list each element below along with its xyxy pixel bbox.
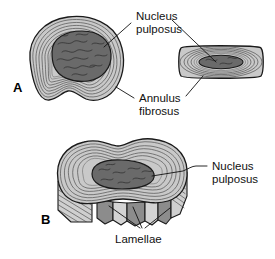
nucleus-pulposus-a (52, 31, 111, 81)
nucleus-pulposus-lateral (199, 55, 243, 69)
annulus-fibrosus-label-line2: fibrosus (139, 105, 180, 117)
nucleus-pulposus-label-a-line1: Nucleus (136, 10, 178, 22)
panel-b-label: B (41, 212, 50, 227)
lamellae-label: Lamellae (115, 233, 162, 245)
nucleus-pulposus-b (92, 160, 154, 189)
lateral-disc-inset (179, 46, 264, 79)
nucleus-pulposus-label-b-line2: pulposus (212, 173, 258, 185)
annulus-fibrosus-label-line1: Annulus (139, 92, 181, 104)
disc-diagram-canvas: A (0, 0, 275, 259)
nucleus-pulposus-label-b-line1: Nucleus (212, 160, 254, 172)
panel-a-label: A (13, 80, 23, 95)
anatomy-figure: A (0, 0, 275, 259)
nucleus-pulposus-label-a-line2: pulposus (136, 23, 182, 35)
lamella-block-5 (145, 200, 158, 225)
